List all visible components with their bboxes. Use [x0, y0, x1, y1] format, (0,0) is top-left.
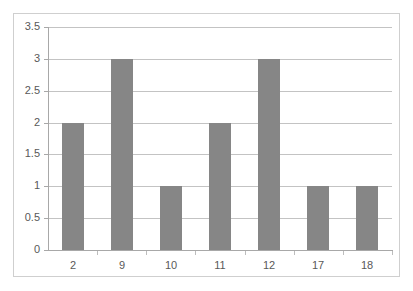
y-axis-tick-label: 3 — [34, 53, 40, 64]
bar — [160, 186, 182, 250]
bar — [307, 186, 329, 250]
x-axis-tick-label: 10 — [151, 259, 191, 271]
x-axis-tick-label: 18 — [347, 259, 387, 271]
y-axis-tick — [44, 250, 48, 251]
chart-frame: 3.532.521.510.50 291011121718 — [13, 13, 400, 277]
x-axis-tick — [343, 251, 344, 255]
bar — [209, 123, 231, 250]
y-axis-tick-label: 1 — [34, 180, 40, 191]
bar — [356, 186, 378, 250]
x-axis-tick — [392, 251, 393, 255]
x-axis-tick-label: 12 — [249, 259, 289, 271]
y-axis-tick-label: 3.5 — [25, 21, 40, 32]
x-axis-tick-label: 17 — [298, 259, 338, 271]
x-axis-tick — [97, 251, 98, 255]
y-axis-tick-label: 0 — [34, 244, 40, 255]
x-axis-tick-label: 9 — [102, 259, 142, 271]
x-axis-tick — [146, 251, 147, 255]
y-axis-tick-label: 1.5 — [25, 148, 40, 159]
bar-series — [48, 27, 393, 250]
bar — [258, 59, 280, 250]
x-axis-tick — [294, 251, 295, 255]
bar — [62, 123, 84, 250]
x-axis-tick-label: 2 — [53, 259, 93, 271]
bar-chart-figure: 3.532.521.510.50 291011121718 — [0, 0, 413, 291]
x-axis-tick-label: 11 — [200, 259, 240, 271]
bar — [111, 59, 133, 250]
y-axis-tick-label: 0.5 — [25, 212, 40, 223]
y-axis-tick-label: 2.5 — [25, 85, 40, 96]
x-axis-tick — [195, 251, 196, 255]
x-axis-tick — [245, 251, 246, 255]
y-axis-tick-label: 2 — [34, 117, 40, 128]
x-axis-line — [48, 250, 393, 251]
